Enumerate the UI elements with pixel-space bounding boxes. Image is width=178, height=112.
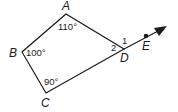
geometry-diagram: A B C D E 110° 100° 90° 1 2 <box>0 0 178 112</box>
vertex-label-b: B <box>9 46 17 60</box>
angle-c-measure: 90° <box>44 76 59 87</box>
angle-1-label: 1 <box>122 35 127 46</box>
angle-a-measure: 110° <box>58 21 77 32</box>
vertex-label-d: D <box>120 51 129 65</box>
point-e <box>144 34 149 39</box>
angle-2-label: 2 <box>111 42 116 53</box>
arrowhead-icon <box>154 26 167 36</box>
vertex-label-a: A <box>61 0 70 13</box>
angle-b-measure: 100° <box>26 47 46 58</box>
point-label-e: E <box>142 39 151 53</box>
vertex-label-c: C <box>41 96 50 110</box>
